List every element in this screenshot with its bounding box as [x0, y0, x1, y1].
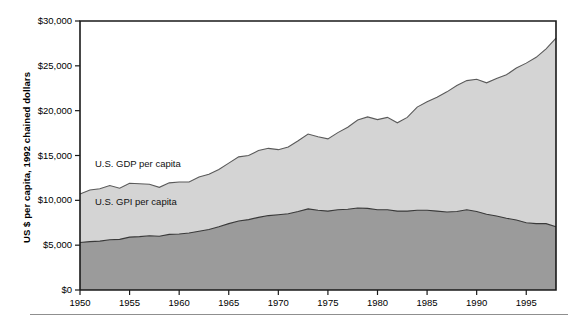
y-tick-label: $20,000 [4, 106, 72, 116]
x-tick-label: 1990 [454, 298, 500, 308]
y-tick-label: $10,000 [4, 195, 72, 205]
y-tick-label: $30,000 [4, 16, 72, 26]
y-tick-label: $0 [4, 285, 72, 295]
series-label-gpi: U.S. GPI per capita [95, 196, 177, 207]
x-tick-label: 1980 [355, 298, 401, 308]
footer-rule [30, 314, 568, 315]
y-tick-label: $15,000 [4, 151, 72, 161]
y-tick-label: $5,000 [4, 240, 72, 250]
x-tick-label: 1960 [156, 298, 202, 308]
plot-area [0, 0, 572, 325]
x-tick-label: 1995 [503, 298, 549, 308]
x-tick-label: 1950 [57, 298, 103, 308]
x-tick-label: 1955 [107, 298, 153, 308]
chart-figure: US $ per capita, 1992 chained dollars $0… [0, 0, 572, 325]
x-tick-label: 1965 [206, 298, 252, 308]
y-tick-label: $25,000 [4, 61, 72, 71]
series-label-gdp: U.S. GDP per capita [95, 158, 181, 169]
x-tick-label: 1985 [404, 298, 450, 308]
x-tick-label: 1970 [255, 298, 301, 308]
x-tick-label: 1975 [305, 298, 351, 308]
